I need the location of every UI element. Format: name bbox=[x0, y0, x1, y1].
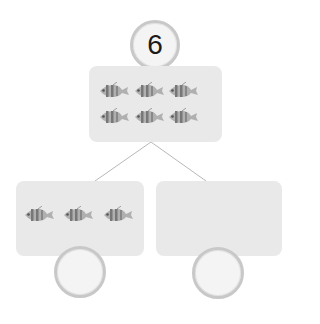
fish-icon bbox=[98, 108, 130, 125]
whole-number: 6 bbox=[147, 29, 163, 61]
part-left-answer-circle[interactable] bbox=[54, 246, 106, 298]
whole-number-circle: 6 bbox=[130, 20, 180, 70]
fish-icon bbox=[23, 206, 55, 223]
fish-icon bbox=[167, 108, 199, 125]
fish-icon bbox=[98, 82, 130, 99]
fish-icon bbox=[102, 206, 134, 223]
fish-icon bbox=[133, 82, 165, 99]
fish-icon bbox=[133, 108, 165, 125]
whole-fish-box bbox=[89, 66, 222, 142]
fish-icon bbox=[167, 82, 199, 99]
fish-icon bbox=[62, 206, 94, 223]
part-right-answer-circle[interactable] bbox=[192, 247, 244, 299]
part-right-fish-box bbox=[156, 181, 282, 256]
